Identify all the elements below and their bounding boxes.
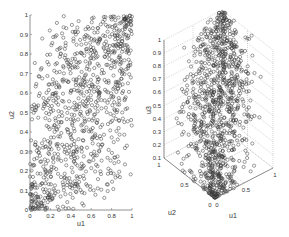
data-point [77,20,80,23]
data-point [111,104,114,107]
data-point [85,126,88,129]
data-point [92,189,95,192]
data-point [107,49,110,52]
data-point [192,175,195,178]
data-point [89,188,92,191]
data-point [106,156,109,159]
data-point [106,123,109,126]
data-point [237,143,240,146]
data-point [243,160,246,163]
data-point [79,38,82,41]
data-point [42,97,45,100]
data-point [189,170,192,173]
data-point [84,170,87,173]
data-point [102,71,105,74]
data-point [116,109,119,112]
data-point [65,143,68,146]
data-point [199,53,202,56]
data-point [244,149,247,152]
y-tick-label: 0.9 [20,32,29,38]
x-tick-label: 0 [28,213,32,219]
data-point [66,201,69,204]
data-point [192,113,195,116]
3d-grid [164,10,273,198]
data-point [77,138,80,141]
data-point [107,167,110,170]
data-point [207,45,210,48]
y-tick-label: 0.4 [20,129,29,135]
data-point [197,70,200,73]
data-point [45,178,48,181]
data-point [106,25,109,28]
data-point [90,167,93,170]
data-point [246,152,249,155]
data-point [205,128,208,131]
data-point [90,48,93,51]
data-point [116,138,119,141]
data-point [52,161,55,164]
data-point [182,90,185,93]
data-point [183,78,186,81]
data-point [55,21,58,24]
data-point [239,55,242,58]
data-point [106,101,109,104]
data-point [87,102,90,105]
data-point [66,111,69,114]
data-point [106,30,109,33]
data-point [102,34,105,37]
data-point [182,130,185,133]
data-point [56,128,59,131]
data-point [96,178,99,181]
data-point [65,152,68,155]
data-point [128,73,131,76]
data-point [89,152,92,155]
u1-tick-label: 1 [273,172,277,178]
data-point [50,165,53,168]
data-point [242,104,245,107]
data-point [180,123,183,126]
data-point [104,35,107,38]
data-point [43,138,46,141]
u2-tick-label: 1 [157,162,161,168]
data-point [247,106,250,109]
data-point [81,86,84,89]
data-point [127,58,130,61]
data-point [79,110,82,113]
data-point [201,161,204,164]
data-point [96,110,99,113]
data-point [101,68,104,71]
data-point [46,74,49,77]
data-point [53,82,56,85]
data-point [37,116,40,119]
data-point [109,159,112,162]
data-point [94,170,97,173]
data-point [65,128,68,131]
data-point [108,98,111,101]
data-point [106,190,109,193]
data-point [114,23,117,26]
data-point [112,141,115,144]
data-point [54,119,57,122]
u3-axis-label: u3 [145,106,152,114]
data-point [92,158,95,161]
data-point [75,52,78,55]
data-point [49,183,52,186]
data-point [48,189,51,192]
data-point [190,171,193,174]
data-point [43,191,46,194]
data-point [91,27,94,30]
data-point [63,47,66,50]
data-point [236,139,239,142]
data-point [232,34,235,37]
scatter-3d-points [175,11,262,200]
data-point [33,61,36,64]
data-point [242,165,245,168]
data-point [71,196,74,199]
data-point [130,124,133,127]
data-point [70,166,73,169]
data-point [94,193,97,196]
u2-axis-label: u2 [168,209,176,216]
data-point [62,189,65,192]
data-point [97,143,100,146]
u1-tick-label: 0 [215,202,219,208]
